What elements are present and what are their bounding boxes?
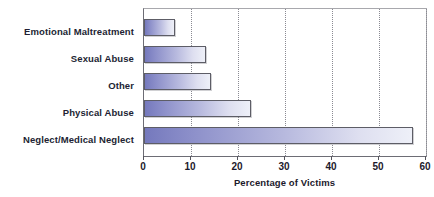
tick-mark-10	[190, 156, 191, 160]
gridline-60	[426, 9, 427, 156]
x-axis-tick-labels: 0102030405060	[143, 161, 426, 175]
x-axis-title: Percentage of Victims	[143, 177, 426, 188]
category-label-emotional-maltreatment: Emotional Maltreatment	[24, 26, 134, 37]
tick-mark-0	[143, 156, 144, 160]
tick-mark-30	[284, 156, 285, 160]
tick-mark-20	[237, 156, 238, 160]
bar-physical-abuse	[144, 100, 251, 117]
tick-mark-50	[378, 156, 379, 160]
x-tick-label-20: 20	[231, 161, 242, 172]
category-label-other: Other	[108, 80, 134, 91]
bar-sexual-abuse	[144, 46, 206, 63]
category-label-sexual-abuse: Sexual Abuse	[71, 53, 134, 64]
x-tick-label-10: 10	[184, 161, 195, 172]
horizontal-bar-chart: Emotional Maltreatment Sexual Abuse Othe…	[0, 0, 434, 197]
x-tick-label-60: 60	[419, 161, 430, 172]
bar-neglect-medical-neglect	[144, 127, 413, 144]
x-tick-label-30: 30	[278, 161, 289, 172]
bar-emotional-maltreatment	[144, 19, 175, 36]
y-axis-category-labels: Emotional Maltreatment Sexual Abuse Othe…	[0, 8, 139, 155]
tick-mark-40	[331, 156, 332, 160]
x-tick-label-50: 50	[372, 161, 383, 172]
plot-area	[143, 8, 427, 157]
category-label-physical-abuse: Physical Abuse	[63, 107, 134, 118]
x-tick-label-0: 0	[140, 161, 146, 172]
category-label-neglect-medical-neglect: Neglect/Medical Neglect	[23, 134, 134, 145]
bars-group	[144, 9, 426, 156]
bar-other	[144, 73, 211, 90]
tick-mark-60	[425, 156, 426, 160]
x-tick-label-40: 40	[325, 161, 336, 172]
